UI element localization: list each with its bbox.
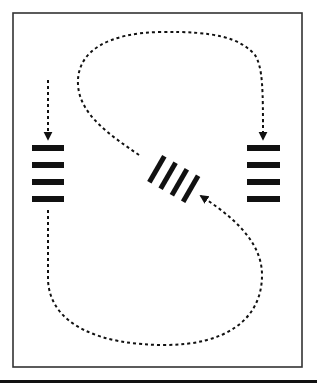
left-stack-bar [32, 179, 64, 185]
bottom-rule [0, 380, 317, 383]
left-stack [32, 145, 64, 202]
right-stack [247, 145, 280, 202]
center-stack [147, 155, 200, 203]
upper-loop-arrow [78, 32, 263, 155]
lower-loop-arrow [48, 196, 262, 345]
left-stack-bar [32, 196, 64, 202]
flow-diagram [0, 0, 317, 385]
left-stack-bar [32, 162, 64, 168]
left-stack-bar [32, 145, 64, 151]
right-stack-bar [247, 179, 280, 185]
right-stack-bar [247, 145, 280, 151]
right-stack-bar [247, 196, 280, 202]
right-stack-bar [247, 162, 280, 168]
